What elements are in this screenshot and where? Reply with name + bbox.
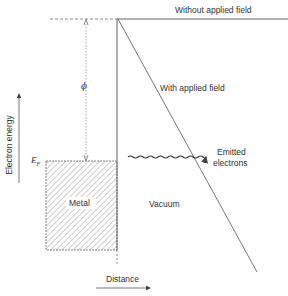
metal-label: Metal: [69, 199, 90, 208]
electrons-label: electrons: [213, 159, 248, 168]
without-field-label: Without applied field: [175, 6, 252, 15]
with-field-label: With applied field: [160, 84, 225, 93]
with-field-line: [118, 19, 257, 272]
distance-axis-label: Distance: [106, 275, 139, 284]
fermi-level-label: EF: [31, 156, 40, 167]
vacuum-label: Vacuum: [149, 200, 180, 209]
phi-label: ϕ: [81, 82, 87, 91]
field-emission-diagram: Without applied field With applied field…: [0, 0, 288, 296]
energy-axis-label: Electron energy: [4, 105, 14, 185]
emitted-electrons-wave: [128, 156, 206, 158]
emitted-label: Emitted: [217, 148, 246, 157]
